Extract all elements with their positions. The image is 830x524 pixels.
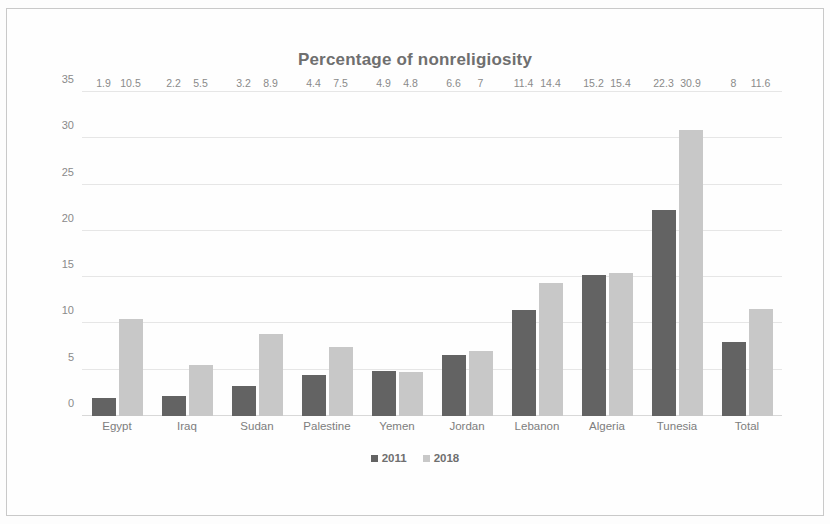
bar: 11.6 bbox=[749, 309, 773, 416]
y-axis-tick-label: 0 bbox=[34, 397, 74, 409]
y-axis-tick-label: 35 bbox=[34, 73, 74, 85]
legend-swatch-icon bbox=[423, 455, 430, 462]
bar-group: 2.25.5 bbox=[152, 92, 222, 416]
chart-title: Percentage of nonreligiosity bbox=[0, 50, 830, 70]
y-axis-tick-label: 10 bbox=[34, 304, 74, 316]
bar-value-label: 11.6 bbox=[751, 77, 771, 89]
bar: 14.4 bbox=[539, 283, 563, 416]
bar-column: 8 bbox=[722, 92, 746, 416]
bar-value-label: 4.9 bbox=[376, 77, 391, 89]
x-axis-category-label: Lebanon bbox=[502, 420, 572, 432]
bar-column: 2.2 bbox=[162, 92, 186, 416]
bar-group: 6.67 bbox=[432, 92, 502, 416]
bar-column: 7.5 bbox=[329, 92, 353, 416]
legend-item[interactable]: 2011 bbox=[371, 452, 407, 464]
bar-column: 6.6 bbox=[442, 92, 466, 416]
bar-column: 11.6 bbox=[749, 92, 773, 416]
x-axis-category-label: Palestine bbox=[292, 420, 362, 432]
bar-column: 4.9 bbox=[372, 92, 396, 416]
bar-value-label: 8 bbox=[731, 77, 737, 89]
bar-value-label: 4.4 bbox=[306, 77, 321, 89]
bar-value-label: 15.2 bbox=[583, 77, 603, 89]
bar-column: 30.9 bbox=[679, 92, 703, 416]
bar: 10.5 bbox=[119, 319, 143, 416]
bar: 8.9 bbox=[259, 334, 283, 416]
bar: 22.3 bbox=[652, 210, 676, 416]
bar-group: 4.47.5 bbox=[292, 92, 362, 416]
x-axis-category-label: Egypt bbox=[82, 420, 152, 432]
bar-value-label: 7 bbox=[478, 77, 484, 89]
bar-column: 5.5 bbox=[189, 92, 213, 416]
bar-value-label: 4.8 bbox=[403, 77, 418, 89]
x-axis-category-label: Yemen bbox=[362, 420, 432, 432]
x-axis-category-label: Iraq bbox=[152, 420, 222, 432]
bar-value-label: 8.9 bbox=[263, 77, 278, 89]
bar-group: 11.414.4 bbox=[502, 92, 572, 416]
bar-column: 3.2 bbox=[232, 92, 256, 416]
legend-label: 2018 bbox=[434, 452, 460, 464]
legend-swatch-icon bbox=[371, 455, 378, 462]
bar-column: 14.4 bbox=[539, 92, 563, 416]
legend-item[interactable]: 2018 bbox=[423, 452, 460, 464]
bar-value-label: 11.4 bbox=[514, 77, 534, 89]
bar: 3.2 bbox=[232, 386, 256, 416]
bar-column: 4.8 bbox=[399, 92, 423, 416]
y-axis-tick-label: 20 bbox=[34, 212, 74, 224]
x-axis-category-label: Sudan bbox=[222, 420, 292, 432]
bar-column: 15.2 bbox=[582, 92, 606, 416]
bar-value-label: 5.5 bbox=[193, 77, 208, 89]
bar-column: 11.4 bbox=[512, 92, 536, 416]
bar-column: 7 bbox=[469, 92, 493, 416]
bar: 11.4 bbox=[512, 310, 536, 416]
bar: 1.9 bbox=[92, 398, 116, 416]
bar-group: 4.94.8 bbox=[362, 92, 432, 416]
y-axis-tick-label: 5 bbox=[34, 351, 74, 363]
bar-group: 15.215.4 bbox=[572, 92, 642, 416]
bar-value-label: 30.9 bbox=[680, 77, 700, 89]
bar: 15.2 bbox=[582, 275, 606, 416]
bar-column: 10.5 bbox=[119, 92, 143, 416]
bar-column: 15.4 bbox=[609, 92, 633, 416]
bar-group: 811.6 bbox=[712, 92, 782, 416]
bar-value-label: 14.4 bbox=[540, 77, 560, 89]
bar-value-label: 1.9 bbox=[96, 77, 111, 89]
bar: 8 bbox=[722, 342, 746, 416]
bar: 2.2 bbox=[162, 396, 186, 416]
bar: 30.9 bbox=[679, 130, 703, 416]
x-axis-category-label: Algeria bbox=[572, 420, 642, 432]
bar: 15.4 bbox=[609, 273, 633, 416]
x-axis-labels: EgyptIraqSudanPalestineYemenJordanLebano… bbox=[82, 420, 782, 432]
scanned-page: Percentage of nonreligiosity 05101520253… bbox=[0, 0, 830, 524]
bar-value-label: 2.2 bbox=[166, 77, 181, 89]
x-axis-category-label: Total bbox=[712, 420, 782, 432]
bar-group: 22.330.9 bbox=[642, 92, 712, 416]
bar-value-label: 3.2 bbox=[236, 77, 251, 89]
y-axis-tick-label: 30 bbox=[34, 119, 74, 131]
bar: 4.4 bbox=[302, 375, 326, 416]
bar-column: 4.4 bbox=[302, 92, 326, 416]
legend-label: 2011 bbox=[382, 452, 407, 464]
bar-column: 1.9 bbox=[92, 92, 116, 416]
plot-area: 05101520253035 1.910.52.25.53.28.94.47.5… bbox=[82, 92, 782, 416]
bar-groups: 1.910.52.25.53.28.94.47.54.94.86.6711.41… bbox=[82, 92, 782, 416]
bar-column: 8.9 bbox=[259, 92, 283, 416]
bar-group: 3.28.9 bbox=[222, 92, 292, 416]
bar-value-label: 15.4 bbox=[610, 77, 630, 89]
bar-value-label: 6.6 bbox=[446, 77, 461, 89]
bar: 7.5 bbox=[329, 347, 353, 416]
bar-group: 1.910.5 bbox=[82, 92, 152, 416]
bar: 6.6 bbox=[442, 355, 466, 416]
y-axis-tick-label: 15 bbox=[34, 258, 74, 270]
y-axis-tick-label: 25 bbox=[34, 166, 74, 178]
bar-value-label: 22.3 bbox=[653, 77, 673, 89]
chart-legend: 20112018 bbox=[0, 452, 830, 464]
bar-value-label: 7.5 bbox=[333, 77, 348, 89]
bar: 5.5 bbox=[189, 365, 213, 416]
x-axis-category-label: Jordan bbox=[432, 420, 502, 432]
bar-column: 22.3 bbox=[652, 92, 676, 416]
bar: 4.9 bbox=[372, 371, 396, 416]
bar: 7 bbox=[469, 351, 493, 416]
bar-value-label: 10.5 bbox=[120, 77, 140, 89]
bar: 4.8 bbox=[399, 372, 423, 416]
bar-chart: Percentage of nonreligiosity 05101520253… bbox=[0, 0, 830, 524]
